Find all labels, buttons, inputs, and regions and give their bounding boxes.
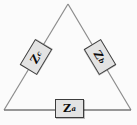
impedance-subscript-za: a	[71, 105, 76, 112]
delta-network-diagram: Zc Zb Za	[0, 0, 137, 125]
impedance-box-za: Za	[55, 99, 84, 118]
impedance-symbol-za: Z	[63, 103, 71, 114]
